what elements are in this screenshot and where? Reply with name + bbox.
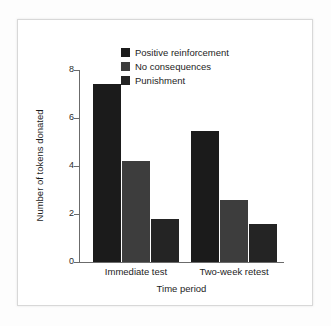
plot-area: 02468 Number of tokens donated Immediate…	[0, 0, 331, 326]
legend-item: No consequences	[121, 60, 271, 73]
chart-legend: Positive reinforcementNo consequencesPun…	[121, 46, 271, 88]
bar	[93, 84, 121, 262]
bar	[122, 161, 150, 262]
x-category-label: Immediate test	[81, 266, 191, 277]
bars-layer	[80, 70, 284, 262]
legend-swatch-icon	[121, 62, 130, 71]
legend-item: Punishment	[121, 74, 271, 87]
y-tick-mark	[74, 70, 79, 71]
x-category-label: Two-week retest	[179, 266, 289, 277]
y-tick-label-wrap: 6	[56, 113, 74, 122]
y-tick-label: 0	[60, 257, 74, 266]
bar	[191, 131, 219, 262]
bar	[249, 224, 277, 262]
y-tick-label: 2	[60, 209, 74, 218]
y-tick-label-wrap: 0	[56, 257, 74, 266]
y-tick-label: 8	[60, 65, 74, 74]
legend-swatch-icon	[121, 48, 130, 57]
y-tick-label: 4	[60, 161, 74, 170]
legend-swatch-icon	[121, 76, 130, 85]
legend-item: Positive reinforcement	[121, 46, 271, 59]
y-tick-mark	[74, 214, 79, 215]
x-axis-title: Time period	[79, 283, 284, 294]
bar	[220, 200, 248, 262]
bar	[151, 219, 179, 262]
legend-label: No consequences	[135, 61, 211, 72]
y-axis-title: Number of tokens donated	[34, 96, 45, 236]
y-tick-label-wrap: 8	[56, 65, 74, 74]
legend-label: Punishment	[135, 75, 185, 86]
y-tick-label: 6	[60, 113, 74, 122]
legend-label: Positive reinforcement	[135, 47, 229, 58]
x-axis-line	[79, 262, 284, 263]
y-tick-mark	[74, 118, 79, 119]
y-tick-label-wrap: 4	[56, 161, 74, 170]
y-tick-mark	[74, 166, 79, 167]
figure-container: 02468 Number of tokens donated Immediate…	[0, 0, 331, 326]
y-tick-label-wrap: 2	[56, 209, 74, 218]
y-tick-mark	[74, 262, 79, 263]
